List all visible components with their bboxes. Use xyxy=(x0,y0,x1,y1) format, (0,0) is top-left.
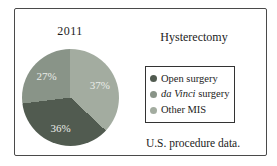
pie-slice-label: 36% xyxy=(51,122,71,133)
pie-chart: 37%36%27% xyxy=(22,49,119,146)
legend-box: Open surgery da Vinci surgery Other MIS xyxy=(145,66,235,123)
legend-item-da-vinci-surgery: da Vinci surgery xyxy=(150,89,230,100)
pie-slice-label: 27% xyxy=(36,71,56,82)
legend-label: Other MIS xyxy=(161,105,206,116)
pie-year-title: 2011 xyxy=(40,24,100,39)
legend-label: da Vinci surgery xyxy=(161,89,229,100)
figure-title: Hysterectomy xyxy=(139,30,249,45)
legend-bullet-open-surgery xyxy=(150,75,157,82)
figure-caption: U.S. procedure data. xyxy=(123,137,263,149)
figure-frame: 2011 Hysterectomy 37%36%27% Open surgery… xyxy=(14,8,267,156)
legend-item-open-surgery: Open surgery xyxy=(150,74,230,85)
legend-label: Open surgery xyxy=(161,74,218,85)
legend-bullet-other-mis xyxy=(150,107,157,114)
legend-bullet-da-vinci-surgery xyxy=(150,91,157,98)
legend-item-other-mis: Other MIS xyxy=(150,105,230,116)
pie-slice-label: 37% xyxy=(90,79,110,90)
